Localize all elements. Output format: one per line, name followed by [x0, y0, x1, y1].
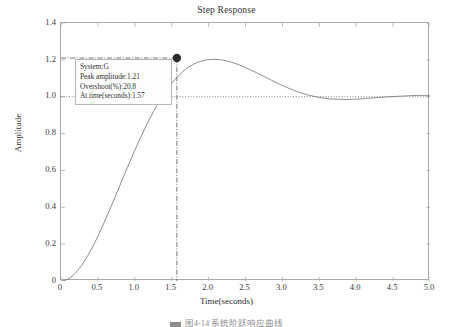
y-tick-label: 0.4: [30, 202, 56, 211]
y-axis-title: Amplitude: [13, 88, 23, 178]
x-tick-label: 3.0: [264, 283, 298, 292]
chart-title: Step Response: [0, 5, 453, 15]
x-tick-label: 5.0: [412, 283, 446, 292]
x-axis-tick-labels: 00.51.01.52.02.53.03.54.04.55.0: [60, 283, 429, 297]
x-axis-title: Time(seconds): [0, 296, 453, 306]
y-tick-label: 0.2: [30, 239, 56, 248]
x-tick-label: 4.5: [375, 283, 409, 292]
y-tick-label: 0.8: [30, 128, 56, 137]
x-tick-label: 2.0: [191, 283, 225, 292]
datatip-peak-amplitude: Peak amplitude:1.21: [80, 72, 168, 82]
datatip-overshoot: Overshoot(%):20.8: [80, 82, 168, 92]
y-tick-label: 1.2: [30, 55, 56, 64]
y-tick-label: 1.0: [30, 91, 56, 100]
datatip-system: System:G: [80, 62, 168, 72]
y-axis-tick-labels: 00.20.40.60.81.01.21.4: [28, 22, 56, 280]
figure-caption: 图4-14 系统阶跃响应曲线: [0, 316, 453, 327]
x-tick-label: 4.0: [338, 283, 372, 292]
caption-marker: [170, 322, 181, 327]
x-tick-label: 0: [43, 283, 77, 292]
x-tick-label: 1.5: [154, 283, 188, 292]
peak-marker-group: [173, 54, 181, 62]
y-tick-label: 1.4: [30, 18, 56, 27]
data-tip-box[interactable]: System:G Peak amplitude:1.21 Overshoot(%…: [75, 59, 172, 105]
x-tick-label: 0.5: [80, 283, 114, 292]
x-tick-label: 1.0: [117, 283, 151, 292]
x-tick-label: 3.5: [301, 283, 335, 292]
datatip-at-time: At time(seconds):1.57: [80, 91, 168, 101]
x-tick-label: 2.5: [228, 283, 262, 292]
caption-text: 图4-14 系统阶跃响应曲线: [185, 318, 284, 327]
y-tick-label: 0.6: [30, 165, 56, 174]
figure-step-response: Step Response 00.20.40.60.81.01.21.4 00.…: [0, 0, 453, 327]
